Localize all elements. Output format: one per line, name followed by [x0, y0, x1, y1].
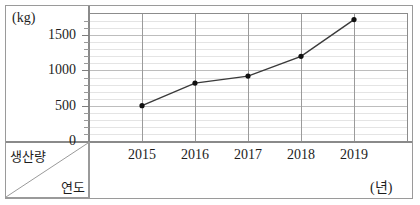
y-tick-major — [82, 70, 89, 71]
series-markers — [139, 17, 356, 108]
y-tick-minor — [84, 42, 89, 43]
y-tick-major — [82, 35, 89, 36]
y-tick-minor — [84, 99, 89, 100]
plot-top-border — [89, 13, 408, 14]
data-point-2017 — [245, 74, 250, 79]
x-tick-label-2019: 2019 — [324, 147, 384, 163]
y-tick-minor — [84, 134, 89, 135]
header-year-label: 연도 — [61, 177, 85, 196]
x-tick-label-2018: 2018 — [271, 147, 331, 163]
header-production-label: 생산량 — [10, 146, 46, 165]
y-tick-label-1000: 1000 — [28, 63, 76, 77]
y-axis-unit-label: (kg) — [12, 10, 35, 26]
y-tick-minor — [84, 92, 89, 93]
y-tick-major — [82, 106, 89, 107]
y-tick-minor — [84, 49, 89, 50]
y-tick-minor — [84, 120, 89, 121]
y-tick-label-500: 500 — [28, 99, 76, 113]
data-point-2019 — [351, 17, 356, 22]
x-tick-label-2015: 2015 — [112, 147, 172, 163]
plot-area — [89, 14, 407, 141]
x-tick-label-2016: 2016 — [165, 147, 225, 163]
axis-header-cell: 생산량 연도 — [6, 142, 89, 198]
y-tick-label-1500: 1500 — [28, 28, 76, 42]
y-tick-minor — [84, 28, 89, 29]
header-bottom-border — [6, 197, 89, 199]
data-point-2015 — [139, 103, 144, 108]
y-tick-minor — [84, 127, 89, 128]
y-tick-minor — [84, 56, 89, 57]
plot-right-border — [407, 13, 408, 142]
y-tick-minor — [84, 85, 89, 86]
data-point-2016 — [192, 81, 197, 86]
chart-figure: (kg) 050010001500 20152016201720182019 (… — [0, 0, 420, 205]
header-right-border — [88, 142, 90, 198]
series-line — [142, 20, 354, 106]
x-tick-label-2017: 2017 — [218, 147, 278, 163]
x-axis-unit-label: (년) — [370, 176, 392, 196]
y-axis-line — [88, 6, 90, 142]
y-tick-minor — [84, 63, 89, 64]
data-point-2018 — [298, 54, 303, 59]
y-tick-minor — [84, 78, 89, 79]
y-tick-minor — [84, 21, 89, 22]
data-series — [89, 14, 407, 141]
y-tick-minor — [84, 113, 89, 114]
